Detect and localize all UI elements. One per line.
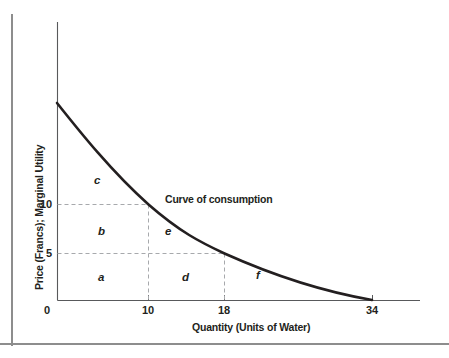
curve-annotation-label: Curve of consumption <box>165 194 272 205</box>
region-label-a: a <box>98 272 104 284</box>
region-label-d: d <box>182 272 189 284</box>
x-tick-label-10: 10 <box>142 305 154 316</box>
region-label-c: c <box>94 175 100 187</box>
region-label-e: e <box>165 226 171 238</box>
x-tick-label-18: 18 <box>218 305 230 316</box>
y-axis-title: Price (Francs); Marginal Utility <box>34 145 45 290</box>
x-tick-label-0: 0 <box>44 305 50 316</box>
region-label-f: f <box>256 270 260 282</box>
x-axis-title: Quantity (Units of Water) <box>192 322 310 333</box>
region-label-b: b <box>98 226 105 238</box>
y-tick-label-10: 10 <box>40 199 52 210</box>
figure-root: Price (Francs); Marginal Utility Quantit… <box>0 0 449 358</box>
x-tick-label-34: 34 <box>366 305 378 316</box>
y-tick-label-5: 5 <box>46 248 52 259</box>
